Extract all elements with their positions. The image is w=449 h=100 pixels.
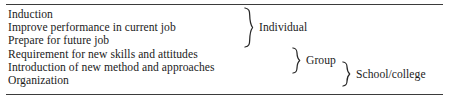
- curly-brace-right-icon: [341, 61, 351, 87]
- list-item: Induction: [8, 8, 238, 21]
- group-label: Group: [306, 54, 336, 67]
- list-item: Introduction of new method and approache…: [8, 61, 238, 74]
- table-figure: Induction Improve performance in current…: [0, 0, 449, 100]
- group-cluster-individual: Individual: [243, 7, 307, 48]
- bottom-horizontal-rule: [6, 94, 443, 95]
- group-label: Individual: [259, 21, 307, 34]
- training-needs-list: Induction Improve performance in current…: [8, 8, 238, 87]
- top-horizontal-rule: [6, 4, 443, 5]
- list-item: Requirement for new skills and attitudes: [8, 48, 238, 61]
- group-label: School/college: [356, 68, 426, 81]
- curly-brace-right-icon: [291, 47, 301, 74]
- group-cluster-school: School/college: [341, 61, 426, 87]
- group-cluster-group: Group: [291, 47, 336, 74]
- list-item: Organization: [8, 74, 238, 87]
- curly-brace-right-icon: [243, 7, 254, 48]
- list-item: Improve performance in current job: [8, 21, 238, 34]
- list-item: Prepare for future job: [8, 34, 238, 47]
